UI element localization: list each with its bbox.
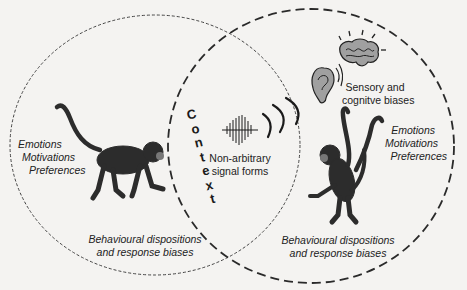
left-trait-motivations: Motivations [18,151,86,164]
left-trait-preferences: Preferences [18,164,86,177]
left-dispositions-line1: Behavioural dispositions [85,233,205,246]
right-trait-emotions: Emotions [380,124,447,137]
waveform-icon [222,115,258,145]
right-dispositions-line1: Behavioural dispositions [278,234,398,247]
right-trait-preferences: Preferences [380,150,447,163]
biases-line2: cognitve biases [342,94,408,107]
left-dispositions: Behavioural dispositions and response bi… [85,233,205,259]
left-trait-emotions: Emotions [18,138,86,151]
left-dispositions-line2: and response biases [85,246,205,259]
brain-icon [339,30,386,66]
sound-waves-icon [263,98,298,137]
signal-label: Non-arbitrary signal forms [205,152,275,178]
signal-label-line2: signal forms [205,165,275,178]
sensory-cognitive-biases: Sensory and cognitve biases [342,81,408,107]
biases-line1: Sensory and [342,81,408,94]
venn-diagram: Emotions Motivations Preferences Behavio… [0,0,467,290]
ear-icon [312,64,343,103]
right-dispositions-line2: and response biases [278,247,398,260]
right-dispositions: Behavioural dispositions and response bi… [278,234,398,260]
monkey-right-icon [310,108,382,222]
right-trait-motivations: Motivations [380,137,447,150]
left-traits: Emotions Motivations Preferences [18,138,86,177]
signal-label-line1: Non-arbitrary [205,152,275,165]
right-traits: Emotions Motivations Preferences [380,124,447,163]
